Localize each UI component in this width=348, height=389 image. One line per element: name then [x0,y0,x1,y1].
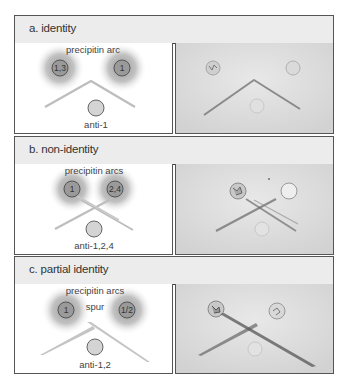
well-left-label: 1 [64,305,69,315]
panel-title: b. non-identity [29,143,98,155]
photo-well [281,183,297,199]
schematic-diagram: precipitin arc 1,3 1 anti-1 [14,43,173,134]
well-left-label: 1 [70,184,75,194]
panel-header: b. non-identity [14,136,334,165]
schematic-diagram: precipitin arcs spur 1 1/2 anti-1,2 [14,284,173,374]
photo-well [286,61,300,75]
photograph [175,164,334,255]
spur-label: spur [86,301,104,312]
photo-well [248,342,262,356]
panel-title: c. partial identity [29,263,108,275]
antibody-label: anti-1 [84,119,108,130]
schematic-diagram: precipitin arcs 1 2,4 anti-1,2,4 [14,164,173,255]
well-right-label: 1/2 [121,305,133,315]
photo-well [255,222,269,236]
arc-label: precipitin arcs [66,285,125,296]
panel-title: a. identity [29,22,76,34]
photograph [175,284,334,374]
antibody-label: anti-1,2 [79,359,111,370]
well-right-label: 2,4 [109,184,121,194]
photo-well [269,303,285,319]
antibody-well [87,339,103,355]
arc-label: precipitin arc [66,44,120,55]
panel-header: c. partial identity [14,256,334,285]
antibody-label: anti-1,2,4 [74,240,114,251]
well-left-label: 1,3 [54,63,66,73]
panel-header: a. identity [14,15,334,44]
antibody-well [86,221,102,237]
photograph [175,43,334,134]
arc-label: precipitin arcs [65,165,124,176]
well-right-label: 1 [120,63,125,73]
photo-well [250,99,264,113]
antibody-well [88,100,104,116]
